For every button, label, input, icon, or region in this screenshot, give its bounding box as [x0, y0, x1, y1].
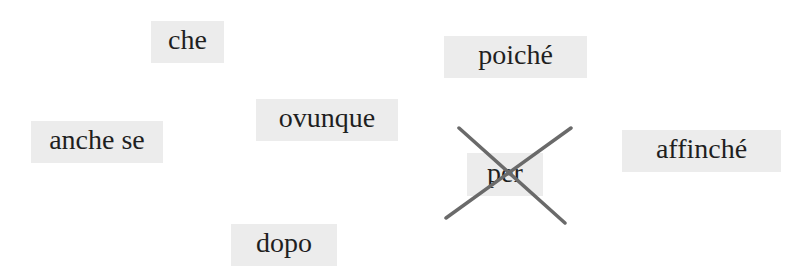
word-card-affinche[interactable]: affinché	[622, 130, 781, 172]
word-label: affinché	[656, 135, 747, 163]
word-label: ovunque	[279, 104, 375, 132]
word-label: anche se	[49, 126, 145, 154]
word-label: che	[168, 26, 207, 54]
word-card-per[interactable]: per	[467, 153, 543, 196]
word-label: dopo	[256, 229, 312, 257]
word-card-ovunque[interactable]: ovunque	[256, 99, 398, 141]
word-card-dopo[interactable]: dopo	[231, 224, 337, 266]
word-label: poiché	[478, 41, 553, 69]
word-card-che[interactable]: che	[151, 21, 224, 63]
word-card-poiche[interactable]: poiché	[444, 36, 587, 78]
word-label: per	[487, 159, 523, 187]
word-card-anche-se[interactable]: anche se	[31, 121, 163, 163]
